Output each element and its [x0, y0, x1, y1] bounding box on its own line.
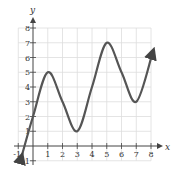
- y-tick-label: 8: [25, 24, 30, 33]
- tick-labels: -112345678-112345678: [13, 24, 153, 166]
- function-graph: x y -112345678-112345678: [0, 0, 181, 178]
- x-tick-label: 3: [75, 150, 80, 159]
- x-axis-label: x: [165, 142, 170, 152]
- x-tick-label: 1: [45, 150, 50, 159]
- y-tick-label: 5: [25, 68, 30, 77]
- y-tick-label: 2: [25, 113, 30, 122]
- x-tick-label: 6: [119, 150, 124, 159]
- y-tick-label: 6: [25, 54, 30, 63]
- y-axis-label: y: [29, 5, 36, 15]
- x-tick-label: 7: [134, 150, 139, 159]
- y-tick-label: 4: [25, 83, 30, 92]
- x-tick-label: 4: [90, 150, 95, 159]
- x-tick-label: 2: [60, 150, 65, 159]
- x-tick-label: 8: [149, 150, 154, 159]
- y-tick-label: 3: [25, 98, 30, 107]
- y-tick-label: -1: [22, 157, 30, 166]
- curve: [21, 43, 152, 158]
- x-tick-label: -1: [13, 150, 21, 159]
- y-tick-label: 7: [25, 39, 30, 48]
- x-tick-label: 5: [104, 150, 109, 159]
